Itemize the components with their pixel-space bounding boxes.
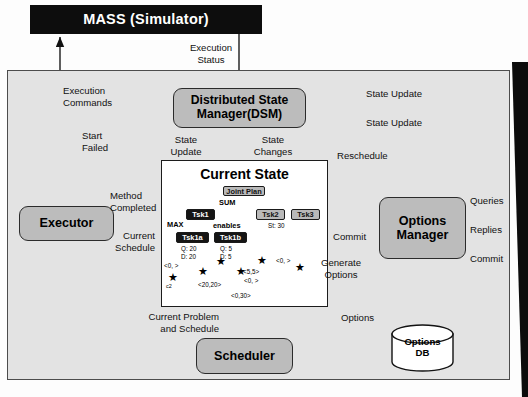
options-manager-label: Options Manager [397, 214, 449, 242]
label-method-completed: Method Completed [110, 190, 156, 213]
diagram-canvas: MASS (Simulator) Distributed State Manag… [0, 0, 528, 397]
label-start-failed: Start Failed [82, 130, 108, 153]
label-state-update-top: State Update [366, 88, 422, 100]
label-state-changes: State Changes [249, 134, 297, 157]
mass-simulator-label: MASS (Simulator) [83, 11, 209, 27]
executor-label: Executor [40, 216, 94, 230]
options-manager-label-line1: Options [399, 214, 447, 228]
options-manager-label-line2: Manager [397, 228, 449, 242]
tsk1a-node[interactable]: Tsk1a [176, 232, 209, 243]
options-db-node[interactable]: Options DB [388, 323, 457, 373]
dsm-label-line1: Distributed State [191, 93, 289, 107]
options-manager-node[interactable]: Options Manager [379, 197, 466, 259]
label-execution-commands: Execution Commands [63, 85, 112, 108]
sched-label-3: <0, > [244, 277, 258, 284]
tsk1-node[interactable]: Tsk1 [186, 209, 215, 220]
label-commit-right: Commit [470, 253, 503, 265]
label-execution-status: Execution Status [176, 42, 246, 65]
sched-label-5: <0,30> [231, 292, 251, 299]
schedule-star: ★ [198, 266, 208, 277]
dsm-label-line2: Manager(DSM) [197, 107, 282, 121]
current-state-title: Current State [162, 166, 327, 182]
label-state-update-left: State Update [165, 134, 207, 157]
label-current-problem: Current Problem and Schedule [109, 311, 219, 334]
c2-label: c2 [166, 283, 172, 289]
label-reschedule: Reschedule [337, 150, 388, 162]
sched-label-0: <0, > [164, 262, 178, 269]
tsk1a-d-label: D: 20 [181, 253, 196, 260]
joint-plan-node[interactable]: Joint Plan [223, 186, 265, 196]
schedule-star: ★ [216, 256, 226, 267]
label-current-schedule: Current Schedule [105, 230, 155, 253]
tsk1a-q-label: Q: 20 [181, 245, 196, 252]
label-commit-mid: Commit [333, 231, 366, 243]
schedule-star: ★ [295, 262, 305, 273]
tsk3-node[interactable]: Tsk3 [291, 209, 320, 220]
label-state-update-bottom: State Update [366, 117, 422, 129]
tsk1b-q-label: Q: 5 [220, 245, 232, 252]
sched-label-1: <20,20> [198, 281, 221, 288]
dsm-label: Distributed State Manager(DSM) [191, 94, 289, 121]
enables-label: enables [213, 221, 241, 230]
sched-label-2: <5,5> [243, 268, 259, 275]
tsk1b-node[interactable]: Tsk1b [214, 232, 247, 243]
label-options: Options [341, 312, 374, 324]
tsk1b-label: Tsk1b [220, 233, 241, 242]
label-generate-options: Generate Options [312, 257, 370, 280]
options-db-label-line2: DB [416, 347, 430, 358]
options-db-label-line1: Options [404, 336, 440, 347]
sum-label: SUM [219, 198, 235, 207]
scheduler-node[interactable]: Scheduler [196, 338, 293, 374]
options-db-label: Options DB [388, 336, 457, 358]
st30-label: St: 30 [268, 222, 284, 229]
tsk1a-label: Tsk1a [182, 233, 202, 242]
tsk2-label: Tsk2 [262, 210, 278, 219]
scheduler-label: Scheduler [214, 349, 275, 363]
sched-label-4: <0, > [276, 257, 290, 264]
label-replies: Replies [470, 224, 502, 236]
label-queries: Queries [470, 195, 504, 207]
tsk2-node[interactable]: Tsk2 [256, 209, 285, 220]
executor-node[interactable]: Executor [19, 206, 114, 241]
mass-simulator-node[interactable]: MASS (Simulator) [30, 5, 262, 34]
schedule-star: ★ [168, 272, 178, 283]
schedule-star: ★ [257, 255, 267, 266]
joint-plan-label: Joint Plan [226, 187, 261, 196]
tsk1-label: Tsk1 [192, 210, 208, 219]
tsk3-label: Tsk3 [297, 210, 313, 219]
max-label: MAX [167, 220, 183, 229]
distributed-state-manager-node[interactable]: Distributed State Manager(DSM) [173, 88, 306, 128]
